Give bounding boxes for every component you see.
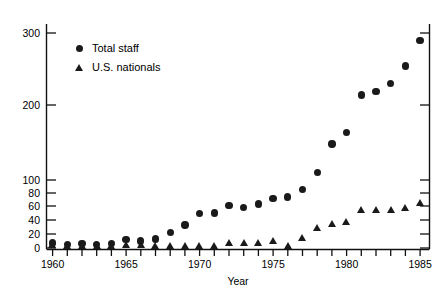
data-point-us-nationals [298, 234, 306, 241]
data-point-us-nationals [254, 239, 262, 246]
data-point-total-staff [372, 88, 379, 95]
data-point-us-nationals [225, 239, 233, 246]
data-point-us-nationals [137, 241, 145, 248]
data-point-us-nationals [151, 242, 159, 249]
data-point-us-nationals [284, 242, 292, 249]
data-point-us-nationals [328, 220, 336, 227]
data-point-us-nationals [240, 239, 248, 246]
data-point-total-staff [314, 169, 321, 176]
data-point-us-nationals [387, 206, 395, 213]
data-point-us-nationals [313, 224, 321, 231]
data-point-us-nationals [181, 242, 189, 249]
data-point-total-staff [343, 129, 350, 136]
data-point-total-staff [358, 91, 365, 98]
data-point-us-nationals [107, 242, 115, 249]
data-markers-layer [0, 0, 443, 296]
data-point-total-staff [240, 204, 247, 211]
data-point-us-nationals [78, 242, 86, 249]
data-point-us-nationals [372, 206, 380, 213]
data-point-total-staff [387, 80, 394, 87]
data-point-total-staff [416, 37, 423, 44]
data-point-us-nationals [48, 241, 56, 248]
data-point-us-nationals [93, 242, 101, 249]
data-point-total-staff [211, 209, 218, 216]
data-point-us-nationals [357, 206, 365, 213]
data-point-us-nationals [195, 242, 203, 249]
data-point-total-staff [196, 210, 203, 217]
data-point-total-staff [402, 62, 409, 69]
data-point-us-nationals [401, 204, 409, 211]
data-point-us-nationals [416, 199, 424, 206]
data-point-total-staff [181, 221, 188, 228]
data-point-us-nationals [63, 242, 71, 249]
data-point-us-nationals [342, 218, 350, 225]
data-point-us-nationals [269, 237, 277, 244]
data-point-us-nationals [166, 242, 174, 249]
data-point-total-staff [255, 200, 262, 207]
data-point-us-nationals [122, 241, 130, 248]
data-point-total-staff [167, 229, 174, 236]
data-point-total-staff [225, 202, 232, 209]
data-point-total-staff [328, 140, 335, 147]
figure-scatter-plot: 300 200 100 80 60 40 20 0 1960 1965 1970… [0, 0, 443, 296]
data-point-total-staff [284, 193, 291, 200]
data-point-total-staff [299, 186, 306, 193]
data-point-us-nationals [210, 242, 218, 249]
data-point-total-staff [269, 195, 276, 202]
